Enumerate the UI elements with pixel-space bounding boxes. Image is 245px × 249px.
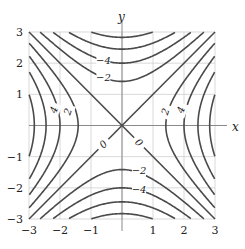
contour-label: −4	[96, 55, 111, 66]
x-tick-label: −1	[83, 224, 99, 237]
y-tick-label: −1	[7, 151, 23, 164]
y-tick-label: 2	[16, 57, 23, 70]
x-tick-label: 2	[181, 224, 188, 237]
x-tick-label: −2	[52, 224, 68, 237]
x-tick-label: 3	[212, 224, 219, 237]
y-axis-label: y	[117, 10, 125, 24]
x-tick-label: −3	[21, 224, 37, 237]
contour-label: −2	[96, 72, 111, 83]
contour-labels: −4−2240240−2−4	[46, 54, 189, 195]
y-tick-label: 3	[16, 26, 23, 39]
y-tick-label: −3	[7, 213, 23, 226]
y-tick-label: 1	[16, 88, 23, 101]
y-tick-label: −2	[7, 182, 23, 195]
tick-labels: −3−2−1123−3−2−1123	[7, 26, 219, 237]
contour-label: −2	[132, 165, 147, 176]
contour-chart: −3−2−1123−3−2−1123 −4−2240240−2−4 x y	[0, 0, 245, 249]
x-tick-label: 1	[150, 224, 157, 237]
x-axis-label: x	[232, 120, 239, 134]
contour-label: −4	[132, 184, 147, 195]
